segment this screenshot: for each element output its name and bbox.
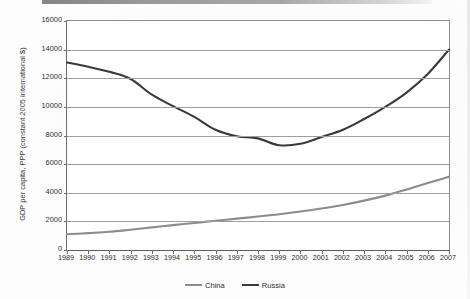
legend-line-swatch-icon <box>185 284 202 286</box>
gridline-horizontal <box>67 78 449 79</box>
y-axis-tick-label: 10000 <box>26 102 62 110</box>
x-axis-tick-labels: 1989199019911992199319941995199619971998… <box>66 253 449 265</box>
series-line-russia <box>67 50 449 146</box>
y-axis-tick-label: 16000 <box>26 16 62 24</box>
legend-item-russia[interactable]: Russia <box>242 281 285 290</box>
gridline-horizontal <box>67 221 449 222</box>
chart-screenshot: GDP per capita, PPP (constant 2005 inter… <box>0 0 470 299</box>
gridline-horizontal <box>67 193 449 194</box>
gridline-horizontal <box>67 136 449 137</box>
plot-area <box>66 20 450 251</box>
gridline-horizontal <box>67 164 449 165</box>
y-axis-tick-labels: 1600014000120001000080006000400020000 <box>26 14 62 255</box>
y-axis-tick-label: 12000 <box>26 73 62 81</box>
line-chart: GDP per capita, PPP (constant 2005 inter… <box>0 0 470 299</box>
series-line-china <box>67 177 449 235</box>
y-axis-tick-label: 14000 <box>26 45 62 53</box>
gridline-horizontal <box>67 50 449 51</box>
legend-line-swatch-icon <box>242 284 259 286</box>
legend-label: Russia <box>262 281 285 290</box>
y-axis-tick-label: 6000 <box>26 159 62 167</box>
gridline-horizontal <box>67 107 449 108</box>
y-axis-tick-label: 0 <box>26 245 62 253</box>
y-axis-tick-label: 4000 <box>26 188 62 196</box>
legend-item-china[interactable]: China <box>185 281 225 290</box>
y-axis-tick-label: 8000 <box>26 131 62 139</box>
chart-legend: ChinaRussia <box>0 278 470 292</box>
legend-label: China <box>205 281 225 290</box>
y-axis-tick-label: 2000 <box>26 216 62 224</box>
y-axis-tick-mark <box>64 21 67 22</box>
x-axis-tick-label: 2007 <box>435 253 461 262</box>
